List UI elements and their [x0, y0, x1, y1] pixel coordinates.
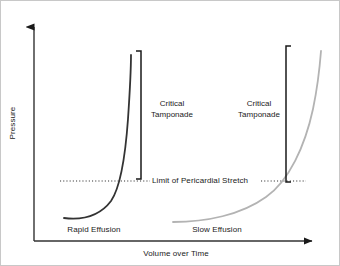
critical-tamponade-label-right-line1: Critical	[230, 98, 288, 109]
slow-effusion-label: Slow Effusion	[177, 225, 257, 235]
slow-effusion-curve	[173, 51, 321, 222]
critical-tamponade-label-left: Critical Tamponade	[144, 98, 200, 120]
critical-tamponade-label-right: Critical Tamponade	[230, 98, 288, 120]
x-axis-label: Volume over Time	[116, 249, 236, 259]
plot-canvas	[1, 1, 340, 266]
rapid-effusion-curve	[64, 55, 131, 219]
pressure-volume-diagram: Pressure Volume over Time Rapid Effusion…	[0, 0, 340, 266]
rapid-effusion-label: Rapid Effusion	[53, 225, 135, 235]
y-axis-label: Pressure	[8, 100, 18, 146]
critical-tamponade-label-left-line2: Tamponade	[144, 109, 200, 120]
critical-tamponade-bracket-left	[136, 51, 141, 179]
critical-tamponade-label-left-line1: Critical	[144, 98, 200, 109]
critical-tamponade-label-right-line2: Tamponade	[230, 109, 288, 120]
limit-of-pericardial-stretch-label: Limit of Pericardial Stretch	[151, 176, 249, 186]
